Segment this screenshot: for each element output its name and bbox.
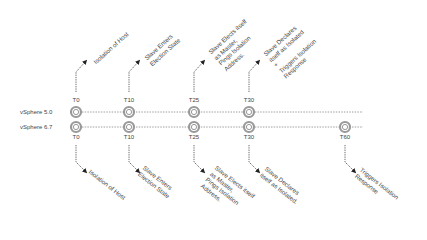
tick-bottom-t30: T30 [244,134,254,140]
row-label-vsphere-5: vSphere 5.0 [20,109,52,115]
row-label-vsphere-67: vSphere 6.7 [20,124,52,130]
tick-top-t10: T10 [124,97,134,103]
tick-bottom-t60: T60 [340,134,350,140]
tick-bottom-t25: T25 [189,134,199,140]
tick-top-t0: T0 [72,97,79,103]
tick-bottom-t10: T10 [124,134,134,140]
tick-top-t30: T30 [244,97,254,103]
tick-top-t25: T25 [189,97,199,103]
tick-bottom-t0: T0 [72,134,79,140]
